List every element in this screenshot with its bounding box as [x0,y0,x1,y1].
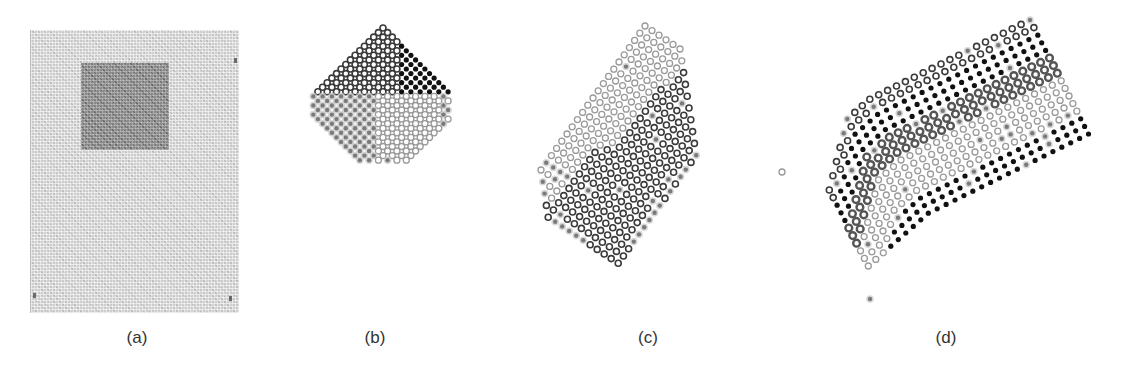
sample-point-black-dot [879,119,884,124]
sample-point-light-ring [933,159,939,165]
sample-point-black-dot [1016,147,1021,152]
sample-point-light-ring [986,133,992,139]
sample-point-light-ring [938,147,944,153]
sample-point-light-ring [865,263,871,269]
sample-point-dark-ring [863,110,869,116]
sample-point-mid-ring [1045,74,1052,81]
sample-point-light-ring [907,153,913,159]
sample-point-light-ring [618,113,624,119]
sample-point-dark-ring [951,64,957,70]
sample-point-mid-ring [917,128,924,135]
sample-point-light-ring [1009,112,1015,118]
sample-point-black-dot [914,210,919,215]
sample-point-light-ring [665,49,671,55]
sample-point-black-dot [1039,40,1044,45]
sample-point-light-ring [585,145,591,151]
sample-point-light-ring [651,39,657,45]
sample-point-black-dot [418,89,423,94]
sample-point-dark-ring [601,251,607,257]
sample-point-gray-dot [372,108,376,112]
sample-point-black-dot [1077,136,1082,141]
sample-point-black-dot [1038,146,1043,151]
sample-point-gray-dot [353,99,357,103]
sample-point-light-ring [1062,85,1068,91]
sample-point-dark-ring [615,260,621,266]
sample-point-dark-ring [848,124,854,130]
sample-point-gray-dot [972,169,976,173]
sample-point-gray-dot [353,108,357,112]
sample-point-dark-ring [674,108,680,114]
sample-point-light-ring [872,191,878,197]
sample-point-gray-dot [654,137,658,141]
sample-point-black-dot [954,92,959,97]
sample-point-gray-dot [339,103,343,107]
sample-point-gray-dot [348,149,352,153]
sample-point-dark-ring [592,235,598,241]
sample-point-black-dot [927,105,932,110]
sample-point-dark-ring [669,115,675,121]
sample-point-mid-ring [860,168,867,175]
sample-point-light-ring [960,126,966,132]
sample-point-light-ring [1052,109,1058,115]
sample-point-light-ring [576,128,582,134]
sample-point-mid-ring [988,93,995,100]
sample-point-light-ring [630,111,636,117]
sample-point-light-ring [654,63,660,69]
sample-point-black-dot [902,99,907,104]
sample-point-gray-dot [367,158,371,162]
sample-point-gray-dot [330,103,334,107]
sample-point-gray-dot [1024,163,1028,167]
sample-point-dark-ring [624,191,630,197]
sample-point-light-ring [602,92,608,98]
sample-point-light-ring [955,138,961,144]
sample-point-gray-dot [441,112,445,116]
sample-point-gray-dot [680,101,684,105]
sample-point-light-ring [538,167,544,173]
sample-point-mid-ring [934,119,941,126]
sample-point-gray-dot [372,153,376,157]
sample-point-mid-ring [1006,84,1013,91]
sample-point-light-ring [1058,78,1064,84]
sample-point-black-dot [1006,171,1011,176]
sample-point-light-ring [951,131,957,137]
sample-point-light-ring [658,44,664,50]
sample-point-mid-ring [970,102,977,109]
sample-point-gray-dot [330,122,334,126]
sample-point-light-ring [548,153,554,159]
sample-point-dark-ring [585,230,591,236]
sample-point-dark-ring [660,141,666,147]
sample-point-light-ring [566,143,572,149]
sample-point-dark-ring [632,123,638,129]
sample-point-light-ring [894,171,900,177]
sample-point-black-dot [853,132,858,137]
sample-point-gray-dot [984,106,988,110]
sample-point-light-ring [1017,127,1023,133]
sample-point-dark-ring [1000,30,1006,36]
sample-point-dark-ring [639,127,645,133]
sample-point-gray-dot [1043,134,1047,138]
sample-point-dark-ring [598,227,604,233]
sample-point-black-dot [853,153,858,158]
sample-point-black-dot [1030,45,1035,50]
sample-point-black-dot [915,102,920,107]
sample-point-gray-dot [1047,142,1051,146]
sample-point-black-dot [986,67,991,72]
sample-point-gray-dot [684,167,688,171]
sample-point-light-ring [590,138,596,144]
sample-point-light-ring [883,170,889,176]
sample-point-dark-ring [636,146,642,152]
sample-point-dark-ring [627,130,633,136]
sample-point-gray-dot [896,216,900,220]
sample-point-gray-dot [367,149,371,153]
sample-point-black-dot [950,84,955,89]
sample-point-gray-dot [1048,122,1052,126]
sample-point-dark-ring [837,166,843,172]
sample-point-light-ring [858,248,864,254]
sample-point-black-dot [892,229,897,234]
sample-point-light-ring [639,42,645,48]
sample-point-black-dot [957,185,962,190]
sample-point-dark-ring [594,204,600,210]
sample-point-dark-ring [1004,38,1010,44]
sample-point-dark-ring [577,214,583,220]
sample-point-light-ring [884,236,890,242]
